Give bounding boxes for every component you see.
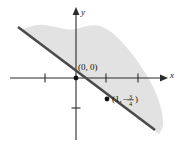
test-point-dot-icon <box>105 97 110 102</box>
solution-region-fill <box>21 25 164 134</box>
test-point-label-prefix: (1, <box>112 94 122 104</box>
y-axis-arrow-icon <box>73 7 80 15</box>
y-axis-label: y <box>80 7 85 17</box>
fraction-denominator: 4 <box>129 100 132 107</box>
test-point-label-minus: − <box>123 94 128 104</box>
test-point-label-suffix: ) <box>135 94 138 104</box>
graph-canvas: x y (0, 0) (1, − 3 4 ) <box>0 0 187 144</box>
x-axis-label: x <box>169 70 174 80</box>
origin-point-label: (0, 0) <box>78 62 98 72</box>
origin-dot-icon <box>74 76 79 81</box>
x-axis-arrow-icon <box>160 75 168 82</box>
fraction-numerator: 3 <box>129 93 132 100</box>
inequality-graph-figure: x y (0, 0) (1, − 3 4 ) <box>0 0 187 144</box>
